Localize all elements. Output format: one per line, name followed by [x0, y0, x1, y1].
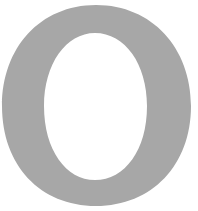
letter-o-glyph: O	[0, 0, 198, 211]
letter-o-shape	[0, 0, 198, 211]
